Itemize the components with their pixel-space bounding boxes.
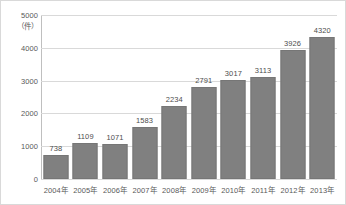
gridline	[41, 179, 337, 180]
bar-chart-figure: （件） 010002000300040005000 73811091071158…	[0, 0, 346, 205]
bar-value-label: 1583	[136, 116, 153, 125]
y-axis-tick-label: 2000	[21, 109, 38, 118]
bar-slot: 3017	[219, 15, 249, 179]
plot-area: 738110910711583223427913017311339264320	[41, 15, 337, 179]
y-axis: （件） 010002000300040005000	[1, 1, 38, 205]
y-axis-unit-label: （件）	[17, 20, 38, 31]
y-axis-tick-label: 3000	[21, 76, 38, 85]
x-axis-tick-label: 2009年	[192, 184, 216, 195]
bar-slot: 2791	[189, 15, 219, 179]
bar[interactable]	[162, 106, 187, 179]
bar[interactable]	[221, 80, 246, 179]
bar-slot: 1109	[71, 15, 101, 179]
bar-value-label: 3017	[225, 69, 242, 78]
bar-value-label: 738	[49, 144, 62, 153]
bar-value-label: 1071	[106, 133, 123, 142]
bar-slot: 4320	[307, 15, 337, 179]
x-axis-tick-label: 2008年	[162, 184, 186, 195]
bar[interactable]	[132, 127, 157, 179]
bar-value-label: 1109	[77, 132, 94, 141]
bar-value-label: 2791	[195, 76, 212, 85]
bar[interactable]	[250, 77, 275, 179]
bar-value-label: 2234	[166, 95, 183, 104]
x-axis-tick-label: 2011年	[251, 184, 275, 195]
x-axis: 2004年2005年2006年2007年2008年2009年2010年2011年…	[41, 182, 337, 202]
x-axis-tick-label: 2005年	[73, 184, 97, 195]
bar-slot: 3113	[248, 15, 278, 179]
x-axis-tick-label: 2012年	[281, 184, 305, 195]
bar[interactable]	[280, 50, 305, 179]
bar-value-label: 3113	[255, 66, 272, 75]
y-axis-tick-label: 1000	[21, 142, 38, 151]
y-axis-tick-label: 5000	[21, 11, 38, 20]
bar-slot: 3926	[278, 15, 308, 179]
bar-slot: 1071	[100, 15, 130, 179]
x-axis-tick-label: 2004年	[44, 184, 68, 195]
bar-value-label: 4320	[314, 26, 331, 35]
bar[interactable]	[73, 143, 98, 179]
bar-slot: 1583	[130, 15, 160, 179]
x-axis-tick-label: 2010年	[221, 184, 245, 195]
bar[interactable]	[102, 144, 127, 179]
bar[interactable]	[191, 87, 216, 179]
bar[interactable]	[310, 37, 335, 179]
bar[interactable]	[43, 155, 68, 179]
bar-slot: 738	[41, 15, 71, 179]
x-axis-tick-label: 2007年	[133, 184, 157, 195]
bar-value-label: 3926	[284, 39, 301, 48]
x-axis-tick-label: 2006年	[103, 184, 127, 195]
y-axis-tick-label: 4000	[21, 43, 38, 52]
y-axis-tick-label: 0	[34, 175, 38, 184]
bar-slot: 2234	[159, 15, 189, 179]
x-axis-tick-label: 2013年	[310, 184, 334, 195]
